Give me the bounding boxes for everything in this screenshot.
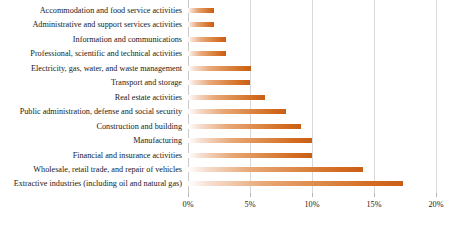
bar [188, 37, 226, 42]
category-label-column: Accommodation and food service activitie… [0, 0, 186, 193]
bar-row [188, 33, 436, 46]
gridline-20% [436, 0, 437, 193]
category-label: Administrative and support services acti… [32, 18, 182, 31]
bar-row [188, 105, 436, 118]
x-tick-mark [436, 193, 437, 197]
bar-row [188, 62, 436, 75]
bar-row [188, 18, 436, 31]
x-tick-mark [312, 193, 313, 197]
category-label: Professional, scientific and technical a… [30, 47, 182, 60]
bar-row [188, 163, 436, 176]
plot-area [188, 0, 436, 193]
x-tick-mark [374, 193, 375, 197]
x-tick-label: 5% [245, 199, 256, 210]
bar [188, 167, 363, 172]
category-label: Real estate activities [115, 91, 182, 104]
bar [188, 181, 403, 186]
bar-row [188, 4, 436, 17]
category-label: Accommodation and food service activitie… [40, 4, 182, 17]
x-axis: 0%5%10%15%20% [188, 193, 436, 231]
bar-row [188, 120, 436, 133]
category-label: Extractive industries (including oil and… [14, 177, 182, 190]
x-tick-label: 0% [183, 199, 194, 210]
bar-row [188, 149, 436, 162]
bar [188, 8, 214, 13]
category-label: Transport and storage [111, 76, 182, 89]
bar [188, 138, 312, 143]
bar-row [188, 47, 436, 60]
bar [188, 124, 301, 129]
x-tick-mark [188, 193, 189, 197]
category-label: Financial and insurance activities [73, 149, 182, 162]
category-label: Wholesale, retail trade, and repair of v… [33, 163, 182, 176]
bars-layer [188, 0, 436, 193]
x-tick-label: 10% [304, 199, 319, 210]
x-tick-label: 15% [366, 199, 381, 210]
bar-row [188, 76, 436, 89]
category-label: Public administration, defense and socia… [20, 105, 182, 118]
bar [188, 153, 312, 158]
bar-row [188, 91, 436, 104]
horizontal-bar-chart: Accommodation and food service activitie… [0, 0, 450, 231]
bar [188, 80, 250, 85]
category-label: Manufacturing [133, 134, 182, 147]
category-label: Electricity, gas, water, and waste manag… [31, 62, 182, 75]
bar-row [188, 134, 436, 147]
bar [188, 109, 286, 114]
bar-row [188, 177, 436, 190]
bar [188, 51, 226, 56]
category-label: Information and communications [73, 33, 182, 46]
bar [188, 66, 251, 71]
x-tick-mark [250, 193, 251, 197]
x-tick-label: 20% [428, 199, 443, 210]
bar [188, 95, 265, 100]
bar [188, 22, 214, 27]
category-label: Construction and building [96, 120, 182, 133]
